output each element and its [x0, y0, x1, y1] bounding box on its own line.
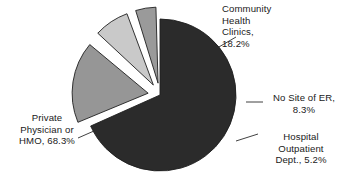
pie-label-no-site-of-er: No Site of ER, 8.3%: [263, 92, 345, 115]
pie-label-community-line4: 18.2%: [222, 38, 312, 50]
pie-label-hospital-line1: Hospital: [258, 131, 344, 143]
pie-label-community-line1: Community: [222, 3, 312, 15]
pie-label-private-line1: Private: [4, 112, 90, 124]
pie-label-private-physician-hmo: Private Physician or HMO, 68.3%: [4, 112, 90, 147]
pie-label-nosite-line1: No Site of ER,: [263, 92, 345, 104]
pie-label-community-health-clinics: Community Health Clinics, 18.2%: [222, 3, 312, 49]
pie-label-community-line3: Clinics,: [222, 26, 312, 38]
pie-label-hospital-line2: Outpatient: [258, 143, 344, 155]
pie-label-hospital-outpatient: Hospital Outpatient Dept., 5.2%: [258, 131, 344, 166]
pie-label-private-line3: HMO, 68.3%: [4, 135, 90, 147]
leader-line-hospital: [236, 134, 258, 141]
pie-slices: [72, 7, 236, 171]
pie-label-community-line2: Health: [222, 15, 312, 27]
pie-label-hospital-line3: Dept., 5.2%: [258, 154, 344, 166]
pie-label-nosite-line2: 8.3%: [263, 104, 345, 116]
pie-label-private-line2: Physician or: [4, 124, 90, 136]
pie-chart: Private Physician or HMO, 68.3% Communit…: [0, 0, 351, 185]
